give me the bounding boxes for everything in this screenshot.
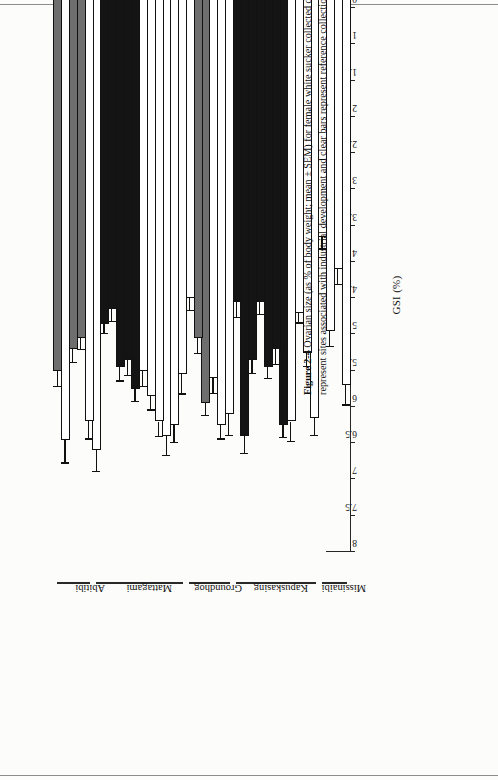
bar[interactable]	[256, 0, 265, 302]
axis-tick	[350, 334, 355, 335]
bar-row[interactable]	[85, 0, 94, 640]
bar-row[interactable]	[279, 0, 288, 640]
group-name: Groundhog	[194, 583, 242, 594]
error-bar-cap	[53, 386, 61, 387]
axis-tick	[350, 225, 355, 226]
error-bar	[251, 360, 252, 375]
bar[interactable]	[279, 0, 288, 425]
bar-row[interactable]	[147, 0, 156, 640]
bar[interactable]	[108, 0, 117, 309]
bar-row[interactable]	[225, 0, 234, 640]
bar-row[interactable]	[248, 0, 257, 640]
bar[interactable]	[92, 0, 101, 451]
bar[interactable]	[194, 0, 203, 338]
bar[interactable]	[53, 0, 62, 371]
error-bar	[197, 338, 198, 354]
bar-row[interactable]	[69, 0, 78, 640]
bar-row[interactable]	[139, 0, 148, 640]
bar[interactable]	[162, 0, 171, 436]
bar[interactable]	[69, 0, 78, 349]
bar-row[interactable]	[100, 0, 109, 640]
axis-tick	[350, 116, 355, 117]
bar-row[interactable]	[240, 0, 249, 640]
bar[interactable]	[139, 0, 148, 371]
bar-row[interactable]	[131, 0, 140, 640]
axis-tick	[350, 442, 355, 443]
axis-tick	[350, 261, 355, 262]
error-bar	[64, 440, 65, 464]
bar[interactable]	[264, 0, 273, 367]
error-bar	[244, 436, 245, 454]
bar-row[interactable]	[116, 0, 125, 640]
axis-tick	[350, 80, 355, 81]
axis-title: GSI (%)	[390, 0, 402, 640]
axis-tick	[350, 44, 355, 45]
error-bar	[96, 451, 97, 473]
bar[interactable]	[225, 0, 234, 414]
bar[interactable]	[124, 0, 133, 360]
error-bar	[166, 436, 167, 456]
bar[interactable]	[147, 0, 156, 396]
bar-row[interactable]	[170, 0, 179, 640]
error-bar	[142, 371, 143, 387]
bar[interactable]	[131, 0, 140, 389]
bar[interactable]	[233, 0, 242, 302]
bar-row[interactable]	[108, 0, 117, 640]
bar-row[interactable]	[178, 0, 187, 640]
bar-row[interactable]	[77, 0, 86, 640]
error-bar	[290, 422, 291, 442]
error-bar	[173, 425, 174, 443]
error-bar	[228, 414, 229, 436]
bar[interactable]	[85, 0, 94, 422]
error-bar	[127, 360, 128, 376]
bar[interactable]	[178, 0, 187, 374]
bar[interactable]	[100, 0, 109, 324]
bar-row[interactable]	[194, 0, 203, 640]
bar-row[interactable]	[53, 0, 62, 640]
bar-row[interactable]	[272, 0, 281, 640]
bar[interactable]	[201, 0, 210, 403]
bar[interactable]	[116, 0, 125, 367]
axis-tick-label: 5	[352, 321, 357, 331]
bar-row[interactable]	[233, 0, 242, 640]
bar[interactable]	[248, 0, 257, 360]
axis-tick-label: 8	[352, 538, 357, 548]
chart-figure: 00.511.522.533.544.555.566.577.58 REF(94…	[50, 0, 440, 640]
bar-row[interactable]	[92, 0, 101, 640]
bar-row[interactable]	[155, 0, 164, 640]
page-rule-bottom	[0, 775, 498, 776]
bar[interactable]	[170, 0, 179, 425]
bar-row[interactable]	[209, 0, 218, 640]
bar[interactable]	[287, 0, 296, 422]
bar-row[interactable]	[217, 0, 226, 640]
bar[interactable]	[186, 0, 195, 298]
bar[interactable]	[217, 0, 226, 425]
axis-tick-label: 4	[352, 248, 357, 258]
axis-tick	[350, 479, 355, 480]
bar[interactable]	[209, 0, 218, 378]
bar[interactable]	[61, 0, 70, 440]
bar-row[interactable]	[287, 0, 296, 640]
bar[interactable]	[240, 0, 249, 436]
bar[interactable]	[77, 0, 86, 338]
bar-row[interactable]	[61, 0, 70, 640]
bar-row[interactable]	[256, 0, 265, 640]
figure-page: 00.511.522.533.544.555.566.577.58 REF(94…	[0, 0, 498, 780]
bar-row[interactable]	[162, 0, 171, 640]
figure-caption: Figure 2-4 Ovarian size (as % of body we…	[300, 0, 346, 395]
bar[interactable]	[155, 0, 164, 422]
error-bar	[150, 396, 151, 411]
error-bar	[181, 374, 182, 394]
group-name: Missinaibi	[322, 583, 366, 594]
axis-tick	[350, 189, 355, 190]
group-name: Kapuskasing	[254, 583, 308, 594]
bar[interactable]	[272, 0, 281, 349]
bar-row[interactable]	[124, 0, 133, 640]
error-bar	[314, 418, 315, 436]
bar-row[interactable]	[186, 0, 195, 640]
bar-row[interactable]	[264, 0, 273, 640]
error-bar	[220, 425, 221, 440]
error-bar	[57, 371, 58, 387]
bar-row[interactable]	[201, 0, 210, 640]
figure-caption-label: Figure 2-4	[302, 350, 313, 395]
